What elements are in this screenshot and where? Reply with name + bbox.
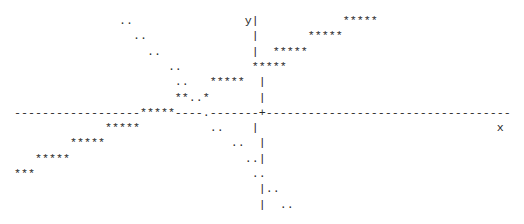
plot-row-3: .. ***** [0,60,287,75]
plot-row-11: |.. [0,182,280,197]
plot-row-5: **..* | [0,91,266,106]
ascii-plot: .. y| ***** .. | ***** .. | ***** .. ***… [0,14,524,224]
plot-row-10: *** .. [0,167,266,182]
plot-row-1: .. | ***** [0,29,343,44]
plot-row-7: ***** .. | x [0,121,504,136]
plot-row-0: .. y| ***** [0,14,378,29]
plot-row-2: .. | ***** [0,45,308,60]
plot-row-4: .. ***** | [0,75,266,90]
plot-row-8: ***** .. | [0,136,266,151]
plot-row-9: ***** ..| [0,152,266,167]
x-axis-row: ------------------*****----.-------+----… [0,106,511,121]
plot-row-12: | .. [0,198,294,213]
